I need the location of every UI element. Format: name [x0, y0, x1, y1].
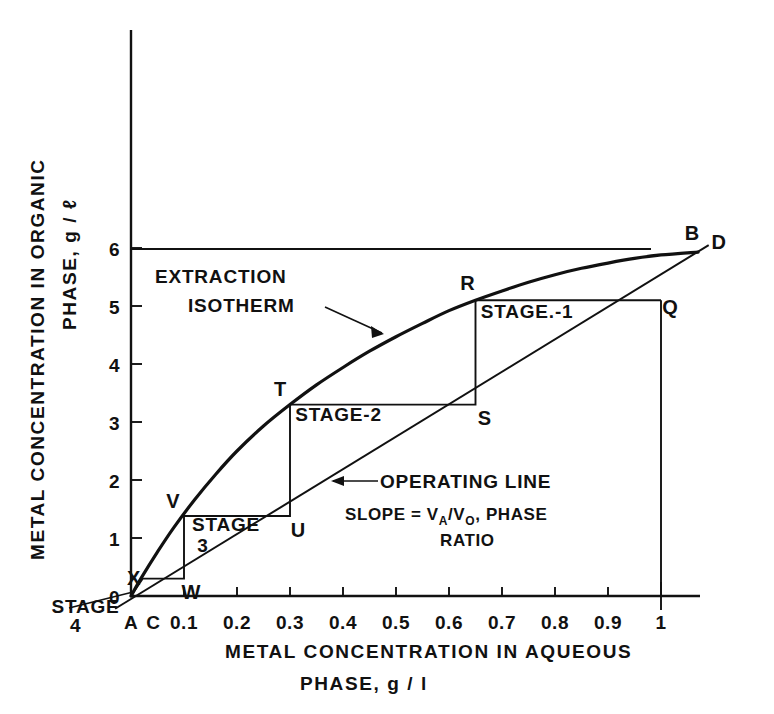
point-label-v: V: [166, 490, 180, 512]
slope-sub-o: O: [465, 514, 475, 528]
x-tick-label: 1: [655, 612, 666, 633]
x-axis-title-line2: PHASE, g / l: [300, 673, 428, 694]
y-tick-label: 6: [109, 239, 120, 260]
point-label-q: Q: [662, 296, 678, 318]
slope-label: SLOPE = VA/VO, PHASE: [345, 505, 547, 528]
y-axis-tick-labels: 0123456: [109, 239, 120, 608]
chart-figure: 0.10.20.30.40.50.60.70.80.91AC 0123456 B…: [0, 0, 774, 714]
y-tick-label: 3: [109, 413, 120, 434]
x-axis-title-line1: METAL CONCENTRATION IN AQUEOUS: [225, 641, 632, 662]
isotherm-annotation: EXTRACTION ISOTHERM: [155, 266, 384, 338]
x-axis-tick-labels: 0.10.20.30.40.50.60.70.80.91AC: [124, 612, 667, 633]
point-label-r: R: [460, 272, 475, 294]
point-label-s: S: [478, 407, 491, 429]
isotherm-leader-arrow: [371, 326, 384, 338]
isotherm-label-line1: EXTRACTION: [155, 266, 287, 287]
x-tick-label: 0.6: [435, 612, 463, 633]
slope-slash: /V: [448, 505, 465, 524]
slope-suffix: , PHASE: [475, 505, 547, 524]
y-axis-title-line2: PHASE, g / ℓ: [59, 198, 80, 330]
x-tick-label: 0.1: [170, 612, 198, 633]
stage-label-5: 4: [70, 615, 81, 636]
point-label-u: U: [291, 519, 305, 541]
x-axis-point-a: A: [124, 612, 138, 633]
y-tick-label: 5: [109, 297, 120, 318]
x-tick-label: 0.7: [488, 612, 516, 633]
x-tick-label: 0.5: [382, 612, 410, 633]
point-label-x: X: [127, 567, 141, 589]
stage-label-4: STAGE: [52, 596, 120, 617]
x-tick-label: 0.2: [223, 612, 251, 633]
operating-leader-arrow: [331, 476, 344, 486]
operating-line-annotation: OPERATING LINE SLOPE = VA/VO, PHASE RATI…: [331, 471, 551, 550]
stage-label-2: STAGE: [192, 514, 260, 535]
point-label-b: B: [685, 222, 699, 244]
y-tick-label: 4: [109, 355, 120, 376]
point-label-w: W: [182, 581, 201, 603]
point-label-d: D: [711, 231, 725, 253]
y-axis-title-line1: METAL CONCENTRATION IN ORGANIC: [27, 158, 48, 560]
stage-label-3: 3: [197, 535, 208, 556]
slope-sub-a: A: [439, 514, 448, 528]
point-label-t: T: [274, 378, 286, 400]
x-tick-label: 0.3: [276, 612, 304, 633]
x-axis-point-c: C: [146, 612, 160, 633]
x-tick-label: 0.8: [541, 612, 569, 633]
y-tick-label: 1: [109, 529, 120, 550]
isotherm-label-line2: ISOTHERM: [188, 295, 295, 316]
operating-line-label: OPERATING LINE: [380, 471, 551, 492]
x-tick-label: 0.9: [594, 612, 622, 633]
stage-label-0: STAGE.-1: [481, 301, 574, 322]
slope-prefix: SLOPE = V: [345, 505, 439, 524]
slope-ratio-label: RATIO: [440, 531, 495, 550]
stage-staircase: [131, 300, 661, 596]
stage-label-1: STAGE-2: [295, 404, 382, 425]
y-tick-label: 2: [109, 471, 120, 492]
extraction-isotherm-chart: 0.10.20.30.40.50.60.70.80.91AC 0123456 B…: [0, 0, 774, 714]
x-tick-label: 0.4: [329, 612, 357, 633]
y-axis-ticks: [131, 248, 142, 538]
